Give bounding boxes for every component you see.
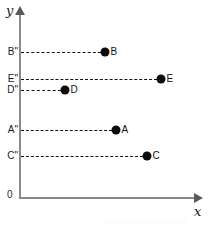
guide-line [21,52,101,53]
y-axis-tick-label: C" [7,151,18,161]
data-point-label: A [122,125,129,135]
data-point[interactable] [157,75,166,84]
x-axis-arrowhead-icon [194,193,203,203]
y-axis-tick-label: E" [8,74,18,84]
guide-line [21,79,157,80]
origin-label: 0 [7,190,13,200]
y-axis-tick-label: A" [8,125,18,135]
y-axis-tick-label: D" [7,85,18,95]
y-axis-arrowhead-icon [15,6,25,15]
x-axis-label: x [194,205,201,218]
scatter-plot-figure: y x 0 B"BE"ED"DA"AC"C [0,0,209,230]
x-axis-line [19,197,196,199]
data-point[interactable] [101,48,110,57]
y-axis-line [19,13,21,199]
guide-line [21,156,143,157]
bottom-artifact [104,219,186,224]
data-point[interactable] [112,126,121,135]
data-point-label: C [153,151,160,161]
y-axis-tick-label: B" [8,47,18,57]
y-axis-label: y [6,4,13,17]
guide-line [21,90,61,91]
data-point[interactable] [61,86,70,95]
data-point-label: D [71,85,78,95]
data-point-label: B [111,47,118,57]
data-point[interactable] [143,152,152,161]
guide-line [21,130,112,131]
data-point-label: E [167,74,174,84]
